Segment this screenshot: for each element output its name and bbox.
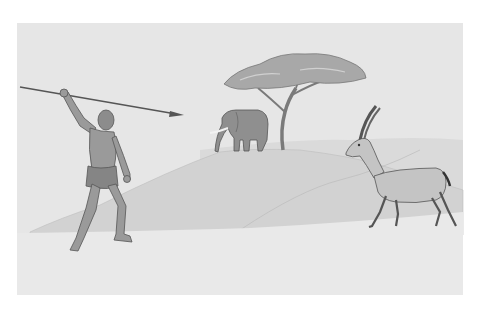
savanna-hunting-scene bbox=[0, 0, 478, 311]
